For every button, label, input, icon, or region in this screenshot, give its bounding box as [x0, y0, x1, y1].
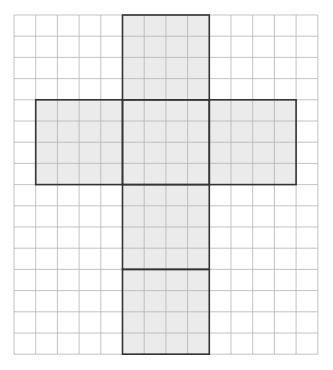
cube-net-diagram	[0, 0, 333, 370]
